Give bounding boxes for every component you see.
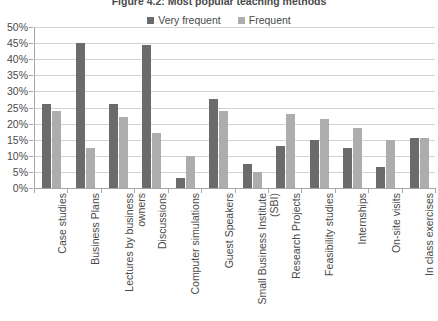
y-axis-tick-label: 5% <box>13 167 28 177</box>
legend-item-very-frequent: Very frequent <box>147 14 220 27</box>
y-axis-tick <box>29 124 33 125</box>
bar-group <box>336 27 369 188</box>
bar-group <box>403 27 436 188</box>
bar-group <box>369 27 402 188</box>
bar-frequent <box>320 119 329 188</box>
y-axis-tick-label: 45% <box>7 38 28 48</box>
bar-group <box>135 27 168 188</box>
bar-group <box>302 27 335 188</box>
y-axis-tick <box>29 156 33 157</box>
legend-label-frequent: Frequent <box>249 14 291 27</box>
bar-group <box>269 27 302 188</box>
bar-very-frequent <box>376 167 385 188</box>
bar-very-frequent <box>176 178 185 188</box>
y-axis-tick <box>29 140 33 141</box>
legend-swatch-frequent <box>238 17 245 24</box>
bar-group <box>68 27 101 188</box>
y-axis-labels: 50%45%40%35%30%25%20%15%10%5%0% <box>0 27 32 188</box>
plot-area <box>34 27 435 188</box>
chart-title: Figure 4.2: Most popular teaching method… <box>0 0 438 7</box>
y-axis-tick-label: 10% <box>7 151 28 161</box>
bar-frequent <box>119 117 128 188</box>
y-axis-tick <box>29 91 33 92</box>
y-axis-tick-label: 15% <box>7 135 28 145</box>
bar-group <box>102 27 135 188</box>
bar-very-frequent <box>142 45 151 188</box>
bar-very-frequent <box>343 148 352 188</box>
bar-frequent <box>353 128 362 188</box>
bar-group <box>202 27 235 188</box>
x-axis-category-label: Small Business Institute (SBI) <box>257 193 280 321</box>
y-axis-tick-label: 40% <box>7 54 28 64</box>
bar-very-frequent <box>209 99 218 188</box>
y-axis-tick <box>29 172 33 173</box>
y-axis-tick-label: 0% <box>13 183 28 193</box>
bar-frequent <box>219 111 228 188</box>
y-axis-tick-label: 30% <box>7 86 28 96</box>
x-axis-category-label: Lectures by business owners <box>124 193 147 321</box>
x-axis-category-label: Research Projects <box>291 193 303 321</box>
bar-group <box>35 27 68 188</box>
bar-frequent <box>152 133 161 188</box>
bar-very-frequent <box>76 43 85 188</box>
x-axis-category-label: Guest Speakers <box>224 193 236 321</box>
bar-groups <box>35 27 435 188</box>
y-axis-tick-label: 25% <box>7 103 28 113</box>
bar-very-frequent <box>310 140 319 188</box>
chart-legend: Very frequent Frequent <box>0 14 438 27</box>
bar-very-frequent <box>276 146 285 188</box>
x-axis-category-label: In class exercises <box>424 193 436 321</box>
bar-group <box>169 27 202 188</box>
x-axis-category-label: Discussions <box>157 193 169 321</box>
legend-label-very-frequent: Very frequent <box>158 14 220 27</box>
bar-frequent <box>186 156 195 188</box>
y-axis-tick-label: 35% <box>7 70 28 80</box>
bar-very-frequent <box>42 104 51 188</box>
y-axis-tick <box>29 108 33 109</box>
y-axis-tick <box>29 27 33 28</box>
x-axis-category-label: Business Plans <box>90 193 102 321</box>
bar-frequent <box>86 148 95 188</box>
x-axis-category-label: Computer simulations <box>190 193 202 321</box>
x-axis-category-label: Case studies <box>57 193 69 321</box>
y-axis-tick <box>29 188 33 189</box>
bar-frequent <box>286 114 295 188</box>
bar-frequent <box>52 111 61 188</box>
bar-frequent <box>253 172 262 188</box>
x-axis-category-label: On-site visits <box>391 193 403 321</box>
bar-frequent <box>420 138 429 188</box>
bar-very-frequent <box>243 164 252 188</box>
bar-very-frequent <box>410 138 419 188</box>
bar-very-frequent <box>109 104 118 188</box>
y-axis-tick-label: 20% <box>7 119 28 129</box>
legend-swatch-very-frequent <box>147 17 154 24</box>
y-axis-tick <box>29 43 33 44</box>
bar-group <box>236 27 269 188</box>
bar-frequent <box>386 140 395 188</box>
y-axis-tick <box>29 75 33 76</box>
y-axis-tick <box>29 59 33 60</box>
x-axis-labels: Case studiesBusiness PlansLectures by bu… <box>34 193 435 321</box>
legend-item-frequent: Frequent <box>238 14 291 27</box>
y-axis-tick-label: 50% <box>7 22 28 32</box>
x-axis-category-label: Feasibility studies <box>324 193 336 321</box>
x-axis-category-label: Internships <box>357 193 369 321</box>
